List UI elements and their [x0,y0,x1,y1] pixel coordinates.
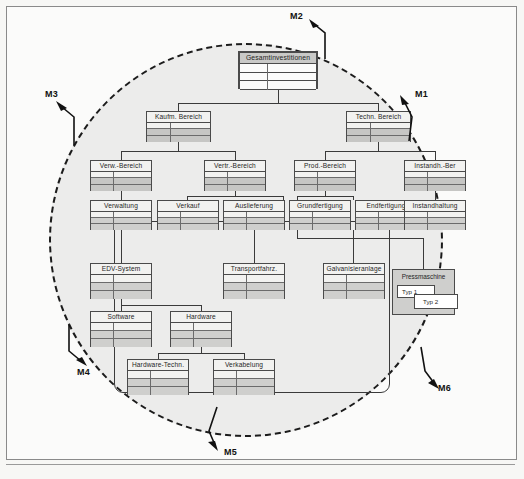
node-grid [324,275,384,299]
node-auslieferung[interactable]: Auslieferung [223,200,285,230]
node-label: Verw.-Bereich [91,161,151,172]
node-grid [295,172,355,191]
connector [435,151,436,160]
node-grid [128,371,188,395]
node-grid-divider [346,275,347,299]
node-grid-divider [267,64,268,90]
node-label: Prod.-Bereich [295,161,355,172]
node-verwaltung[interactable]: Verwaltung [90,200,152,230]
node-galvanisieranlage[interactable]: Galvanisieranlage [323,263,385,299]
node-vertr-bereich[interactable]: Vertr.-Bereich [204,160,266,191]
node-pressmaschine[interactable]: Pressmaschine Typ 1 Typ 2 [392,269,455,315]
node-kaufm-bereich[interactable]: Kaufm. Bereich [146,111,211,142]
node-grid-divider [113,172,114,191]
node-label: Vertr.-Bereich [205,161,265,172]
node-instandhaltung[interactable]: Instandhaltung [404,200,466,230]
node-verw-bereich[interactable]: Verw.-Bereich [90,160,152,191]
marker-arrow-m1 [389,95,429,141]
node-grundfertigung[interactable]: Grundfertigung [289,200,351,230]
connector [187,196,283,197]
node-label: Hardware [171,312,231,323]
connector [325,151,326,160]
node-verkauf[interactable]: Verkauf [157,200,219,230]
marker-arrow-m5 [193,407,237,453]
node-grid [224,275,284,299]
node-label: Verwaltung [91,201,151,212]
node-grid-divider [236,371,237,395]
node-grid [147,123,210,142]
node-grid-divider [113,323,114,347]
node-grid-divider [427,212,428,230]
node-grid-divider [246,275,247,299]
node-grid [214,371,274,395]
node-grid [290,212,350,230]
marker-arrow-m3 [47,99,87,145]
node-hardware[interactable]: Hardware [170,311,232,347]
node-edv-system[interactable]: EDV-System [90,263,152,299]
node-software[interactable]: Software [90,311,152,347]
node-grid [91,212,151,230]
connector [178,103,179,111]
node-label: EDV-System [91,264,151,275]
marker-arrow-m4 [57,325,97,371]
node-label: Transportfahrz. [224,264,284,275]
node-grid [91,323,151,347]
connector [435,191,436,200]
node-transportfahrz[interactable]: Transportfahrz. [223,263,285,299]
connector [278,89,279,103]
connector [178,103,378,104]
node-grid [224,212,284,230]
connector [325,151,435,152]
connector [423,238,424,269]
connector [297,196,353,197]
node-grid-divider [193,323,194,347]
node-grid-divider [312,212,313,230]
node-grid-divider [370,123,371,142]
connector [121,151,235,152]
marker-label-m3: M3 [45,89,58,99]
node-typ-2[interactable]: Typ 2 [414,294,458,309]
node-prod-bereich[interactable]: Prod.-Bereich [294,160,356,191]
node-grid-divider [317,172,318,191]
node-grid [205,172,265,191]
figure-caption-text [6,465,515,468]
marker-arrow-m6 [407,347,451,393]
node-grid-divider [150,371,151,395]
connector [235,151,236,160]
node-label: Instandhaltung [405,201,465,212]
node-grid [91,172,151,191]
connector [178,142,179,151]
node-label: Hardware-Techn. [128,360,188,371]
node-grid [405,212,465,230]
node-grid-divider [113,275,114,299]
node-instandh-ber[interactable]: Instandh.-Ber [404,160,466,191]
node-label: Galvanisieranlage [324,264,384,275]
node-verkabelung[interactable]: Verkabelung [213,359,275,395]
connector [353,196,354,200]
node-label: Verkabelung [214,360,274,371]
node-grid-divider [378,212,379,230]
node-label: Kaufm. Bereich [147,112,210,123]
node-grid [171,323,231,347]
connector [121,191,122,200]
marker-label-m2: M2 [290,11,303,21]
connector [121,151,122,160]
node-label: Software [91,312,151,323]
node-label: Pressmaschine [393,270,454,282]
node-grid-divider [246,212,247,230]
node-grid-divider [180,212,181,230]
node-grid [240,64,316,90]
node-label: Verkauf [158,201,218,212]
node-grid [91,275,151,299]
marker-arrow-m2 [303,19,343,59]
node-label: Auslieferung [224,201,284,212]
figure-caption [6,464,515,479]
node-grid-divider [427,172,428,191]
node-grid-divider [227,172,228,191]
node-hardware-techn[interactable]: Hardware-Techn. [127,359,189,395]
node-grid [158,212,218,230]
node-grid-divider [170,123,171,142]
connector [378,103,379,111]
node-grid [405,172,465,191]
connector [378,142,379,151]
